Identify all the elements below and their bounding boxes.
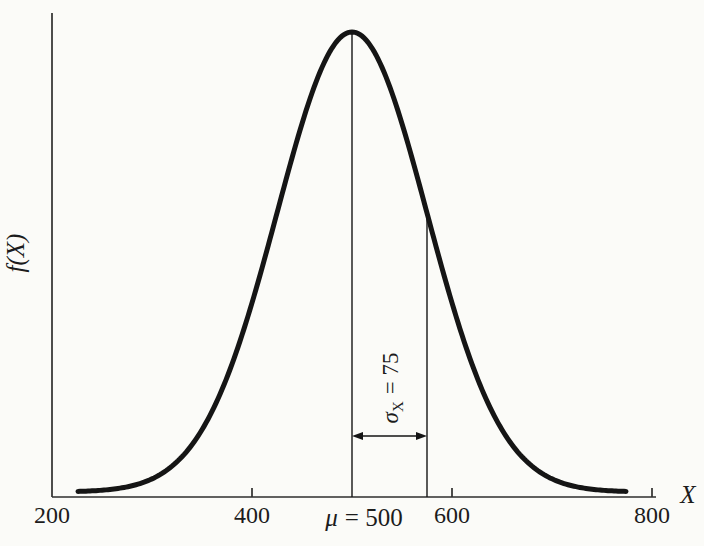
sigma-label: σX= 75 (378, 353, 406, 424)
sigma-value: = 75 (378, 353, 403, 395)
mean-label: μ= 500 (324, 504, 402, 531)
sigma-arrow (352, 432, 427, 440)
x-tick-label-800: 800 (634, 502, 670, 528)
sigma-subscript: X (390, 401, 406, 412)
y-axis-title: f(X) (2, 234, 30, 273)
x-tick-label-600: 600 (434, 502, 470, 528)
x-tick-label-400: 400 (234, 502, 270, 528)
x-tick-label-200: 200 (34, 502, 70, 528)
mean-value: = 500 (345, 504, 403, 531)
chart-canvas: 200400600800 σX= 75 μ= 500 X f(X) (0, 0, 704, 546)
normal-distribution-figure: 200400600800 σX= 75 μ= 500 X f(X) (0, 0, 704, 546)
sigma-arrow-left-head (352, 432, 363, 440)
sigma-arrow-right-head (416, 432, 427, 440)
x-axis-title: X (679, 481, 697, 508)
mu-symbol: μ (324, 504, 338, 531)
